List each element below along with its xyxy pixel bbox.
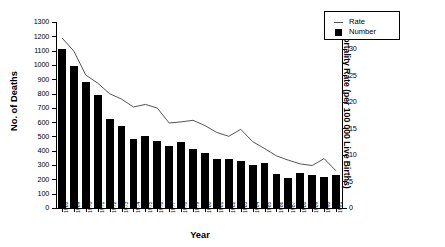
y-tick xyxy=(52,208,56,209)
x-tick-label: 1978 xyxy=(183,202,188,213)
chart-legend: Rate Number xyxy=(324,11,400,40)
legend-label-number: Number xyxy=(349,27,376,36)
x-tick-label: 1988 xyxy=(302,202,307,213)
y-tick-label: 800 xyxy=(15,90,49,97)
x-tick xyxy=(145,209,146,212)
x-tick-label: 1982 xyxy=(231,202,236,213)
x-tick-label: 1979 xyxy=(195,202,200,213)
y2-tick-label: 20 xyxy=(349,98,369,105)
y2-tick-label: 5 xyxy=(349,178,369,185)
y-tick-label: 1000 xyxy=(15,61,49,68)
x-axis-title: Year xyxy=(0,230,400,240)
legend-label-rate: Rate xyxy=(349,17,365,26)
y-tick-label: 1200 xyxy=(15,33,49,40)
x-tick-label: 1971 xyxy=(100,202,105,213)
x-tick-label: 1983 xyxy=(243,202,248,213)
x-tick-label: 1984 xyxy=(255,202,260,213)
x-tick-label: 1974 xyxy=(136,202,141,213)
y-tick-label: 900 xyxy=(15,76,49,83)
x-tick-label: 1986 xyxy=(279,202,284,213)
y2-tick xyxy=(343,208,347,209)
x-tick-label: 1969 xyxy=(76,202,81,213)
y-tick-label: 1300 xyxy=(15,18,49,25)
y-tick-label: 100 xyxy=(15,190,49,197)
y2-tick-label: 0 xyxy=(349,204,369,211)
y-tick-label: 700 xyxy=(15,104,49,111)
y-axis-right-title: Mortality Rate (per 100 000 Live Births) xyxy=(342,30,352,208)
x-tick-label: 1989 xyxy=(314,202,319,213)
x-tick xyxy=(288,209,289,212)
x-tick-label: 1973 xyxy=(124,202,129,213)
y-tick-label: 600 xyxy=(15,119,49,126)
y2-tick-label: 10 xyxy=(349,151,369,158)
x-tick-label: 1970 xyxy=(88,202,93,213)
x-tick-label: 1976 xyxy=(159,202,164,213)
x-tick-label: 1981 xyxy=(219,202,224,213)
y2-tick-label: 30 xyxy=(349,45,369,52)
x-tick-label: 1972 xyxy=(112,202,117,213)
y-tick-label: 0 xyxy=(15,204,49,211)
y-tick-label: 1100 xyxy=(15,47,49,54)
x-tick-label: 1990 xyxy=(326,202,331,213)
x-tick-label: 1975 xyxy=(148,202,153,213)
y-tick-label: 500 xyxy=(15,133,49,140)
y-tick-label: 300 xyxy=(15,161,49,168)
x-tick-label: 1977 xyxy=(171,202,176,213)
line-series-rate xyxy=(56,22,342,208)
plot-area xyxy=(56,22,342,208)
y2-tick-label: 15 xyxy=(349,125,369,132)
y-axis-left-title: No. of Deaths xyxy=(9,46,19,156)
x-tick-label: 1985 xyxy=(267,202,272,213)
x-tick-label: 1968 xyxy=(64,202,69,213)
y-tick-label: 400 xyxy=(15,147,49,154)
legend-line-icon xyxy=(334,22,343,23)
mortality-chart: 0100200300400500600700800900100011001200… xyxy=(0,0,445,247)
x-tick xyxy=(133,209,134,212)
x-tick-label: 1980 xyxy=(207,202,212,213)
x-tick-label: 1987 xyxy=(291,202,296,213)
y2-tick-label: 25 xyxy=(349,72,369,79)
y-tick-label: 200 xyxy=(15,176,49,183)
x-tick xyxy=(276,209,277,212)
legend-square-icon xyxy=(335,29,342,36)
